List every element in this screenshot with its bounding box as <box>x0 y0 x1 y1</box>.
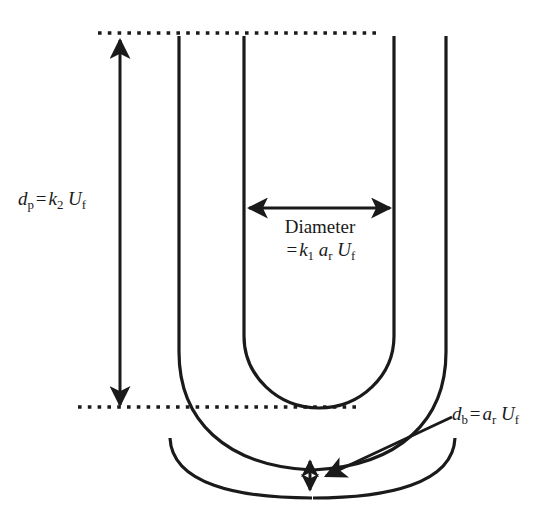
label-db: db=ar Uf <box>452 403 519 425</box>
label-dp: dp=k2 Uf <box>18 188 86 210</box>
label-db-rhs: ar <box>482 403 496 424</box>
label-dp-operator: = <box>34 188 49 209</box>
label-diameter-title: Diameter <box>285 216 356 237</box>
diagram-canvas: dp=k2 Uf Diameter =k1 ar Uf db=ar Uf <box>0 0 559 518</box>
label-db-operator: = <box>468 403 483 424</box>
label-diameter-formula: =k1 ar Uf <box>244 239 396 261</box>
label-dp-symbol: dp <box>18 188 34 209</box>
label-db-symbol: db <box>452 403 468 424</box>
label-diameter-term1: k1 <box>299 239 314 260</box>
label-diameter: Diameter =k1 ar Uf <box>244 216 396 262</box>
label-diameter-term2: ar <box>319 239 333 260</box>
label-dp-rhs: k2 <box>48 188 63 209</box>
db-leader-line <box>326 417 452 476</box>
label-db-factor: Uf <box>501 403 519 424</box>
label-diameter-operator: = <box>285 239 300 260</box>
label-diameter-term3: Uf <box>337 239 355 260</box>
label-dp-factor: Uf <box>68 188 86 209</box>
